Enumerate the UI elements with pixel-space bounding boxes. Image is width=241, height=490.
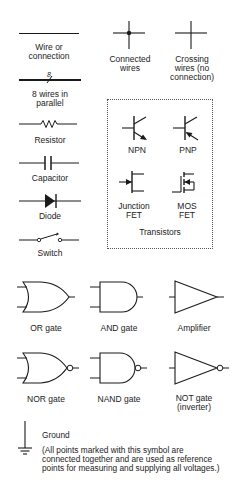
- pnp-label: PNP: [173, 146, 203, 155]
- mosfet-symbol: [172, 168, 202, 198]
- not-gate-label: NOT gate (inverter): [166, 394, 222, 412]
- connected-wires-symbol: [113, 21, 147, 51]
- crossing-wires-label: Crossing wires (no connection): [163, 55, 221, 82]
- nor-gate-symbol: [17, 350, 81, 390]
- jfet-label: Junction FET: [114, 202, 154, 220]
- nand-gate-label: NAND gate: [90, 395, 148, 404]
- resistor-symbol: [19, 119, 77, 129]
- or-gate-symbol: [17, 279, 75, 319]
- bus-count-mark: 8: [47, 70, 51, 79]
- resistor-label: Resistor: [19, 136, 81, 145]
- capacitor-label: Capacitor: [19, 174, 81, 183]
- ground-label: Ground: [42, 431, 70, 440]
- switch-symbol: [19, 230, 81, 244]
- switch-label: Switch: [19, 249, 81, 258]
- pnp-transistor-symbol: [173, 112, 203, 142]
- diode-label: Diode: [19, 212, 81, 221]
- ground-note: (All points marked with this symbol are …: [42, 446, 220, 473]
- nand-gate-symbol: [90, 350, 154, 390]
- capacitor-symbol: [19, 155, 81, 171]
- crossing-wires-symbol: [175, 21, 209, 51]
- jfet-symbol: [119, 168, 149, 198]
- nor-gate-label: NOR gate: [17, 395, 75, 404]
- mosfet-label: MOS FET: [167, 202, 207, 220]
- amplifier-symbol: [169, 279, 231, 319]
- amplifier-label: Amplifier: [166, 324, 222, 333]
- not-gate-symbol: [169, 350, 235, 390]
- and-gate-symbol: [90, 279, 148, 319]
- transistors-group-label: Transistors: [107, 228, 213, 237]
- or-gate-label: OR gate: [17, 324, 75, 333]
- connected-wires-label: Connected wires: [103, 55, 157, 73]
- wire-label: Wire or connection: [19, 43, 79, 61]
- npn-label: NPN: [122, 146, 152, 155]
- ground-symbol: [16, 421, 36, 457]
- diode-symbol: [19, 193, 81, 209]
- and-gate-label: AND gate: [90, 324, 148, 333]
- bus-label: 8 wires in parallel: [19, 90, 81, 108]
- wire-symbol: [19, 32, 79, 36]
- npn-transistor-symbol: [122, 112, 152, 142]
